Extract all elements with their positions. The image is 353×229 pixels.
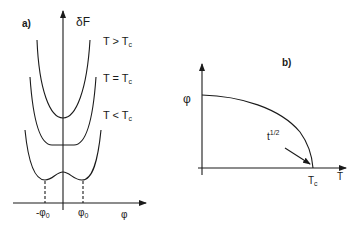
figure-graphics [0,0,353,229]
tick-phi0: φ0 [78,208,88,218]
tick-minus-phi0-main: -φ [36,207,46,218]
label-t-equal-tc: T = Tc [103,73,132,84]
label-t-below-tc: T < Tc [103,110,132,121]
panel-b-x-axis-label: T [337,172,343,182]
label-t-above-tc-text: T > T [103,35,129,47]
panel-a-label: a) [22,19,31,29]
tick-phi0-sub: 0 [84,212,88,219]
panel-a-y-axis-label: δF [76,16,90,28]
tick-minus-phi0-sub: 0 [46,212,50,219]
tick-minus-phi0: -φ0 [36,208,50,218]
order-parameter-curve [202,95,313,168]
panel-a-x-axis-label: φ [121,210,127,220]
label-t-below-tc-text: T < T [103,109,129,121]
phase-transition-figure: a) δF T > Tc T = Tc T < Tc -φ0 φ0 φ b) φ… [0,0,353,229]
t-half-annotation: t1/2 [267,132,280,142]
tc-tick-label: Tc [308,176,318,186]
t-half-sup: 1/2 [270,129,280,136]
t-half-arrow [285,148,310,164]
label-t-below-tc-sub: c [129,115,133,122]
panel-b-label: b) [282,58,291,68]
label-t-equal-tc-sub: c [129,78,133,85]
panel-b-y-axis-label: φ [183,93,191,105]
tc-tick-sub: c [314,180,318,187]
label-t-above-tc: T > Tc [103,36,132,47]
panel-b-graph [198,64,346,175]
label-t-above-tc-sub: c [129,41,133,48]
label-t-equal-tc-text: T = T [103,72,129,84]
